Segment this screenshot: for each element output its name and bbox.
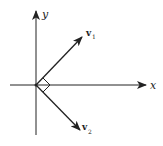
vector-v2-subscript: 2 (88, 128, 92, 135)
vector-v2-arrow (36, 85, 80, 130)
vector-v2-label: v (81, 122, 88, 132)
vector-v1-subscript: 1 (92, 33, 96, 40)
x-axis-label: x (150, 79, 157, 92)
orthogonal-vectors-diagram: y x v 1 v 2 (0, 0, 163, 146)
origin-point (35, 84, 38, 87)
y-axis-label: y (41, 8, 49, 21)
vector-v1-label: v (85, 28, 92, 38)
vector-v1-arrow (36, 37, 82, 85)
